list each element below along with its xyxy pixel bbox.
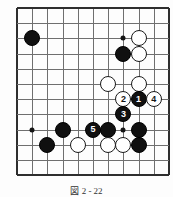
go-diagram-figure: 21435 図 2 - 22 [0,0,173,197]
stone-white-d[interactable] [131,76,147,92]
stone-white-e[interactable] [70,137,86,153]
grid-line-horizontal [17,69,169,70]
star-point [30,127,35,132]
stone-black-c[interactable] [100,122,116,138]
stone-move-number: 5 [86,123,100,137]
grid-line-horizontal [17,174,169,176]
stone-move-2[interactable]: 2 [115,91,131,107]
stone-move-4[interactable]: 4 [146,91,162,107]
stone-move-number: 1 [132,92,146,106]
stone-white-b[interactable] [131,46,147,62]
figure-caption: 図 2 - 22 [0,184,173,197]
go-board[interactable]: 21435 [0,0,173,186]
grid-line-vertical [63,8,64,175]
stone-white-f[interactable] [100,137,116,153]
stone-black-d[interactable] [131,122,147,138]
stone-black-b[interactable] [55,122,71,138]
grid-line-horizontal [17,160,169,161]
stone-white-c[interactable] [100,76,116,92]
star-point [121,127,126,132]
stone-black-a[interactable] [115,46,131,62]
stone-white-a[interactable] [131,30,147,46]
stone-move-5[interactable]: 5 [85,122,101,138]
stone-move-number: 2 [116,92,130,106]
stone-move-3[interactable]: 3 [115,106,131,122]
stone-move-1[interactable]: 1 [131,91,147,107]
star-point [121,36,126,41]
grid-line-horizontal [17,114,169,115]
grid-line-vertical [93,8,94,175]
grid-line-vertical [168,8,170,175]
stone-move-number: 4 [147,92,161,106]
grid-line-vertical [16,8,18,175]
stone-black-f[interactable] [131,137,147,153]
stone-black-star-upper-left[interactable] [24,30,40,46]
grid-line-horizontal [17,23,169,24]
grid-line-horizontal [17,7,169,9]
stone-move-number: 3 [116,107,130,121]
stone-black-e[interactable] [39,137,55,153]
stone-white-g[interactable] [115,137,131,153]
